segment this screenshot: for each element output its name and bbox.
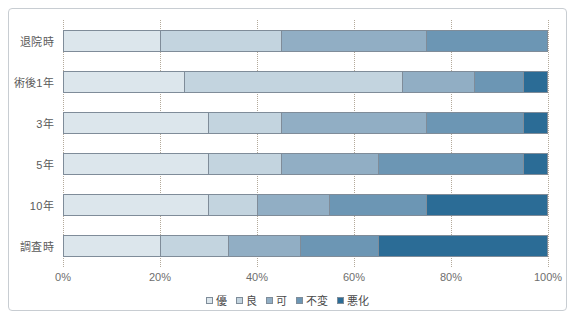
gridline-0pct bbox=[63, 20, 64, 267]
bar-segment-優 bbox=[63, 153, 209, 175]
legend-swatch-icon bbox=[206, 297, 213, 304]
chart-legend: 優良可不変悪化 bbox=[9, 292, 566, 308]
bar-segment-可 bbox=[281, 112, 427, 134]
plot-area: 退院時術後1年3年5年10年調査時 bbox=[63, 20, 548, 267]
bar-segment-優 bbox=[63, 235, 161, 257]
gridline-40pct bbox=[257, 20, 258, 267]
bar-segment-可 bbox=[281, 30, 427, 52]
x-axis: 0%20%40%60%80%100% bbox=[63, 271, 548, 287]
bar-segment-良 bbox=[184, 71, 403, 93]
legend-item-label: 優 bbox=[216, 292, 227, 308]
bar-row: 3年 bbox=[63, 112, 548, 134]
y-axis-category-label: 10年 bbox=[30, 197, 54, 213]
bar-segment-良 bbox=[208, 112, 282, 134]
bar-segment-優 bbox=[63, 194, 209, 216]
x-axis-tick-label: 20% bbox=[149, 271, 171, 283]
y-axis-category-label: 3年 bbox=[36, 115, 54, 131]
gridline-20pct bbox=[160, 20, 161, 267]
chart-container: 退院時術後1年3年5年10年調査時 0%20%40%60%80%100% 優良可… bbox=[8, 8, 567, 311]
gridline-100pct bbox=[548, 20, 549, 267]
bar-segment-可 bbox=[402, 71, 476, 93]
legend-swatch-icon bbox=[296, 297, 303, 304]
stacked-bar bbox=[63, 235, 548, 257]
bar-segment-悪化 bbox=[523, 112, 548, 134]
legend-item[interactable]: 可 bbox=[266, 292, 287, 308]
bar-segment-可 bbox=[228, 235, 302, 257]
legend-item-label: 良 bbox=[246, 292, 257, 308]
legend-swatch-icon bbox=[236, 297, 243, 304]
bar-row: 術後1年 bbox=[63, 71, 548, 93]
bar-segment-不変 bbox=[378, 153, 524, 175]
y-axis-category-label: 5年 bbox=[36, 156, 54, 172]
legend-item[interactable]: 優 bbox=[206, 292, 227, 308]
x-axis-tick-label: 0% bbox=[55, 271, 71, 283]
bar-segment-不変 bbox=[426, 30, 548, 52]
gridline-80pct bbox=[451, 20, 452, 267]
legend-item-label: 不変 bbox=[306, 292, 328, 308]
x-axis-tick-label: 100% bbox=[534, 271, 562, 283]
stacked-bar bbox=[63, 112, 548, 134]
legend-swatch-icon bbox=[266, 297, 273, 304]
bar-segment-優 bbox=[63, 71, 185, 93]
stacked-bar bbox=[63, 194, 548, 216]
legend-swatch-icon bbox=[337, 297, 344, 304]
stacked-bar bbox=[63, 30, 548, 52]
bar-segment-悪化 bbox=[378, 235, 548, 257]
bar-segment-可 bbox=[281, 153, 379, 175]
bar-segment-悪化 bbox=[523, 71, 548, 93]
bar-segment-良 bbox=[160, 235, 229, 257]
x-axis-tick-label: 40% bbox=[246, 271, 268, 283]
bar-segment-良 bbox=[208, 153, 282, 175]
y-axis-category-label: 退院時 bbox=[20, 33, 54, 49]
bar-segment-良 bbox=[208, 194, 257, 216]
bar-segment-悪化 bbox=[426, 194, 548, 216]
bar-segment-悪化 bbox=[523, 153, 548, 175]
bar-segment-優 bbox=[63, 30, 161, 52]
legend-item[interactable]: 悪化 bbox=[337, 292, 369, 308]
bar-row: 5年 bbox=[63, 153, 548, 175]
stacked-bar bbox=[63, 153, 548, 175]
y-axis-category-label: 調査時 bbox=[20, 238, 54, 254]
x-axis-tick-label: 60% bbox=[343, 271, 365, 283]
x-axis-tick-label: 80% bbox=[440, 271, 462, 283]
bar-row: 退院時 bbox=[63, 30, 548, 52]
legend-item-label: 可 bbox=[276, 292, 287, 308]
legend-item[interactable]: 良 bbox=[236, 292, 257, 308]
legend-item-label: 悪化 bbox=[347, 292, 369, 308]
gridline-60pct bbox=[354, 20, 355, 267]
bar-segment-優 bbox=[63, 112, 209, 134]
bar-row: 10年 bbox=[63, 194, 548, 216]
bar-row: 調査時 bbox=[63, 235, 548, 257]
bar-segment-不変 bbox=[300, 235, 378, 257]
y-axis-category-label: 術後1年 bbox=[14, 74, 54, 90]
bar-segment-可 bbox=[257, 194, 331, 216]
bar-segment-不変 bbox=[474, 71, 523, 93]
bar-segment-良 bbox=[160, 30, 282, 52]
bar-segment-不変 bbox=[329, 194, 427, 216]
stacked-bar bbox=[63, 71, 548, 93]
bar-segment-不変 bbox=[426, 112, 524, 134]
legend-item[interactable]: 不変 bbox=[296, 292, 328, 308]
